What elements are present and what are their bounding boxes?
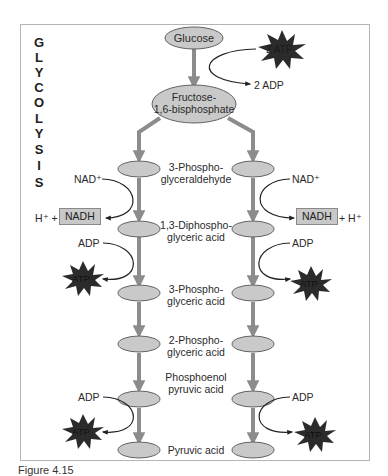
- title-letter: O: [32, 96, 46, 110]
- glucose-label: Glucose: [165, 32, 223, 44]
- intermediate-label: pyruvic acid: [160, 383, 232, 395]
- left-atp-label-1: ATP: [72, 273, 90, 285]
- title-letter: L: [32, 51, 46, 65]
- title-letter: G: [32, 36, 46, 50]
- intermediate-label: glyceric acid: [160, 231, 232, 243]
- figure-caption: Figure 4.15: [18, 464, 74, 476]
- title-letter: I: [32, 159, 46, 173]
- intermediate-label: 3-Phospho-: [160, 283, 232, 295]
- intermediate-label: 1,3-Diphospho-: [160, 219, 232, 231]
- left-adp-label-1: ADP: [78, 237, 100, 249]
- left-nad-label: NAD⁺: [74, 173, 102, 185]
- right-nad-label: NAD⁺: [292, 173, 320, 185]
- right-adp-label-2: ADP: [292, 391, 314, 403]
- intermediate-label: Pyruvic acid: [160, 444, 232, 456]
- intermediate-label: glyceric acid: [160, 346, 232, 358]
- intermediate-label: Phosphoenol: [160, 371, 232, 383]
- left-atp-label-2: ATP: [72, 426, 90, 438]
- intermediate-label: 2-Phospho-: [160, 334, 232, 346]
- intermediate-label: 3-Phospho-: [160, 161, 232, 173]
- atp-in-label: 2 ATP: [266, 44, 293, 56]
- title-letter: Y: [32, 127, 46, 141]
- left-h-plus-label: H⁺ +: [35, 212, 58, 224]
- right-atp-label-2: ATP: [304, 429, 322, 441]
- fructose-label-2: 1,6-bisphosphate: [152, 103, 236, 115]
- right-h-plus-label: + H⁺: [339, 212, 362, 224]
- title-letter: L: [32, 112, 46, 126]
- title-letter: S: [32, 143, 46, 157]
- fructose-label-1: Fructose-: [152, 91, 236, 103]
- right-nadh-box: NADH: [296, 208, 338, 225]
- right-adp-label-1: ADP: [292, 237, 314, 249]
- title-letter: C: [32, 81, 46, 95]
- left-nadh-box: NADH: [59, 208, 101, 225]
- title-letter: S: [32, 176, 46, 190]
- adp-out-label: 2 ADP: [254, 79, 284, 91]
- intermediate-label: glyceric acid: [160, 295, 232, 307]
- right-atp-label-1: ATP: [300, 278, 318, 290]
- left-adp-label-2: ADP: [78, 391, 100, 403]
- intermediate-label: glyceraldehyde: [160, 173, 232, 185]
- title-letter: Y: [32, 66, 46, 80]
